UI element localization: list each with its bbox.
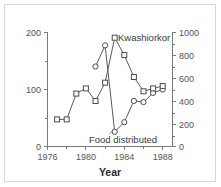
x-tick-label-1976: 1976	[37, 152, 57, 162]
data-point	[112, 35, 117, 40]
kwashiorkor-line	[57, 38, 163, 120]
figure-container: 200 100 0 1000 800 600 400 200 0	[0, 0, 221, 187]
x-tick-label-1980: 1980	[76, 152, 96, 162]
left-axis: 200 100 0	[26, 28, 48, 152]
left-tick-label-100: 100	[26, 85, 41, 95]
data-point	[93, 64, 98, 69]
data-point	[122, 120, 127, 125]
data-point	[141, 89, 146, 94]
x-tick-label-1988: 1988	[153, 152, 173, 162]
data-point	[74, 91, 79, 96]
x-axis-title: Year	[99, 166, 121, 178]
data-point	[160, 84, 165, 89]
x-axis: 1976 1980 1984 1988 Year	[37, 147, 172, 179]
data-point	[131, 75, 136, 80]
data-point	[122, 53, 127, 58]
right-tick-label-200: 200	[179, 120, 194, 130]
data-point	[93, 99, 98, 104]
data-point	[64, 117, 69, 122]
left-tick-label-200: 200	[26, 28, 41, 38]
annotation-label-food-distributed: Food distributed	[89, 134, 157, 145]
annotation-kwashiorkor: Kwashiorkor	[118, 32, 170, 43]
right-axis: 1000 800 600 400 200 0	[173, 28, 200, 152]
right-tick-label-1000: 1000	[179, 28, 199, 38]
right-tick-label-800: 800	[179, 51, 194, 61]
right-tick-label-0: 0	[179, 142, 184, 152]
data-point	[103, 80, 108, 85]
data-point	[141, 100, 146, 105]
data-point	[103, 43, 108, 48]
line-chart: 200 100 0 1000 800 600 400 200 0	[0, 0, 221, 187]
left-tick-label-0: 0	[36, 142, 41, 152]
annotation-food-distributed: Food distributed	[89, 131, 157, 145]
data-point	[131, 98, 136, 103]
data-point	[151, 86, 156, 91]
series-kwashiorkor	[55, 35, 166, 122]
data-point	[83, 86, 88, 91]
right-tick-label-600: 600	[179, 74, 194, 84]
annotation-label-kwashiorkor: Kwashiorkor	[118, 32, 170, 43]
data-point	[55, 117, 60, 122]
right-tick-label-400: 400	[179, 97, 194, 107]
x-tick-label-1984: 1984	[114, 152, 134, 162]
